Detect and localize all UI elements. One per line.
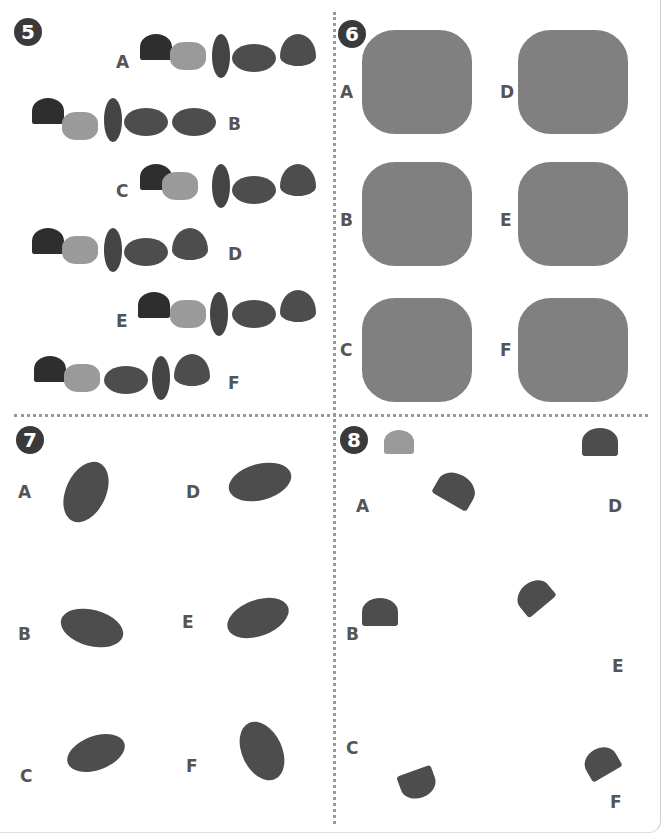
option-d[interactable]: D: [500, 82, 514, 102]
option-e[interactable]: E: [500, 210, 512, 230]
option-b[interactable]: B: [18, 624, 31, 644]
option-c[interactable]: C: [20, 766, 32, 786]
option-a[interactable]: A: [356, 496, 369, 516]
option-d[interactable]: D: [228, 244, 242, 264]
option-f[interactable]: F: [500, 340, 512, 360]
puzzle-number-7: 7: [16, 426, 44, 454]
puzzle-number-8: 8: [340, 426, 368, 454]
option-e[interactable]: E: [116, 311, 128, 331]
horizontal-divider: [14, 414, 648, 417]
option-f[interactable]: F: [186, 756, 198, 776]
vertical-divider: [333, 12, 336, 824]
option-b[interactable]: B: [228, 114, 241, 134]
option-c[interactable]: C: [346, 738, 358, 758]
puzzle-number-5: 5: [14, 18, 42, 46]
option-d[interactable]: D: [186, 482, 200, 502]
option-e[interactable]: E: [612, 656, 624, 676]
option-a[interactable]: A: [18, 482, 31, 502]
option-c[interactable]: C: [116, 181, 128, 201]
option-e[interactable]: E: [182, 612, 194, 632]
option-a[interactable]: A: [340, 82, 353, 102]
option-c[interactable]: C: [340, 340, 352, 360]
option-b[interactable]: B: [346, 624, 359, 644]
puzzle-page: 5 A B C D E F: [0, 0, 661, 833]
option-f[interactable]: F: [228, 373, 240, 393]
option-b[interactable]: B: [340, 210, 353, 230]
option-d[interactable]: D: [608, 496, 622, 516]
option-f[interactable]: F: [610, 792, 622, 812]
puzzle-number-6: 6: [338, 20, 366, 48]
option-a[interactable]: A: [116, 52, 129, 72]
